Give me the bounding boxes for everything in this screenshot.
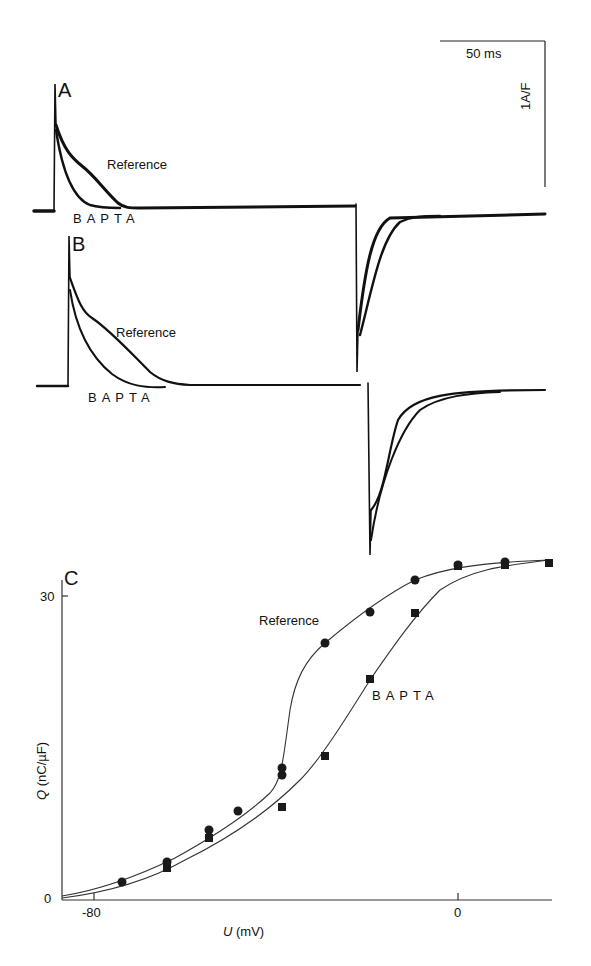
panel-b-bapta-label: BAPTA [88,390,155,405]
panel-b-letter: B [72,233,85,256]
panel-b-reference-label: Reference [116,325,176,340]
x-tick-0: 0 [454,905,461,920]
figure-canvas [0,0,591,966]
y-axis-label: Q (nC/µF) [34,742,49,800]
panel-c-bapta-markers [163,559,553,872]
panel-c-fit-curves [62,560,549,898]
panel-c-bapta-label: BAPTA [372,688,439,703]
y-axis-unit: (nC/µF) [34,742,49,790]
scale-bar-time-label: 50 ms [466,46,501,61]
panel-c-axes [62,580,552,900]
y-tick-0: 0 [44,891,51,906]
x-tick-minus-80: -80 [82,905,101,920]
panel-a-bapta-label: BAPTA [73,211,140,226]
x-axis-unit: (mV) [232,924,264,939]
panel-a-traces [34,84,545,372]
y-tick-30: 30 [40,589,54,604]
panel-a-letter: A [58,79,71,102]
x-axis-label: U (mV) [223,924,264,939]
panel-a-reference-label: Reference [107,157,167,172]
scale-bar-current-label: 1A/F [518,83,533,110]
x-axis-symbol: U [223,924,232,939]
scale-bar [440,41,545,187]
y-axis-symbol: Q [34,790,49,800]
panel-c-letter: C [64,567,78,590]
panel-c-reference-label: Reference [259,613,319,628]
panel-c-reference-markers [118,558,510,887]
